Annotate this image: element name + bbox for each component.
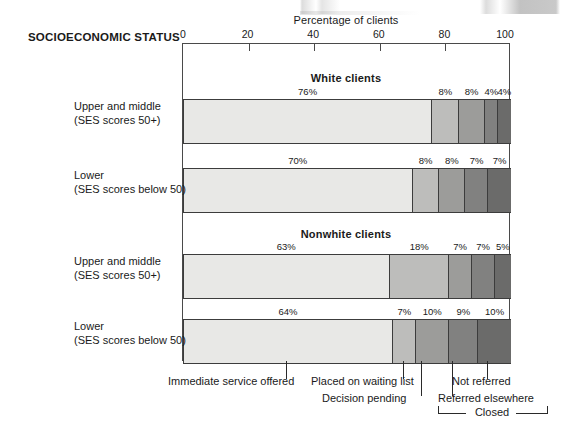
value-label: 7% xyxy=(453,241,467,252)
value-label: 63% xyxy=(277,241,296,252)
value-label: 7% xyxy=(398,306,412,317)
value-label: 8% xyxy=(465,86,479,97)
segment-not-referred[interactable] xyxy=(498,99,511,144)
scan-artifact-top xyxy=(0,0,565,14)
group-header-white: White clients xyxy=(183,72,509,84)
value-label: 76% xyxy=(298,86,317,97)
legend-label-not-referred: Not referred xyxy=(452,375,511,387)
value-label: 5% xyxy=(496,241,510,252)
legend-label-decision-pending: Decision pending xyxy=(322,392,406,404)
legend-label-waiting-list: Placed on waiting list xyxy=(311,375,414,387)
x-tick-mark-40 xyxy=(314,44,315,51)
segment-decision-pending[interactable] xyxy=(459,99,485,144)
segment-immediate-service[interactable] xyxy=(183,99,432,144)
x-tick-label-0: 0 xyxy=(180,28,186,40)
value-label: 4% xyxy=(498,86,512,97)
bar-white-upper-middle[interactable] xyxy=(183,99,511,144)
x-axis-title: Percentage of clients xyxy=(182,14,510,26)
segment-decision-pending[interactable] xyxy=(439,168,465,213)
segment-not-referred[interactable] xyxy=(495,254,511,299)
x-tick-label-100: 100 xyxy=(496,28,514,40)
x-tick-mark-60 xyxy=(380,44,381,51)
group-header-nonwhite: Nonwhite clients xyxy=(183,228,509,240)
value-label: 18% xyxy=(410,241,429,252)
value-label: 10% xyxy=(423,306,442,317)
value-label: 7% xyxy=(476,241,490,252)
leader-line-decision-pending xyxy=(421,361,422,396)
value-label: 64% xyxy=(278,306,297,317)
value-label: 8% xyxy=(445,155,459,166)
chart-axis-heading: SOCIOECONOMIC STATUS xyxy=(28,31,180,43)
x-tick-label-40: 40 xyxy=(307,28,319,40)
segment-not-referred[interactable] xyxy=(488,168,511,213)
bar-white-lower[interactable] xyxy=(183,168,511,213)
segment-referred-elsewhere[interactable] xyxy=(485,99,498,144)
bar-nonwhite-upper-middle[interactable] xyxy=(183,254,511,299)
x-tick-label-60: 60 xyxy=(373,28,385,40)
value-label: 8% xyxy=(439,86,453,97)
closed-bracket-line-right xyxy=(516,413,548,414)
x-tick-label-20: 20 xyxy=(242,28,254,40)
segment-referred-elsewhere[interactable] xyxy=(449,319,479,364)
value-label: 4% xyxy=(484,86,498,97)
segment-waiting-list[interactable] xyxy=(393,319,416,364)
segment-waiting-list[interactable] xyxy=(390,254,449,299)
closed-bracket-line-left xyxy=(438,413,466,414)
legend-label-immediate-service: Immediate service offered xyxy=(168,375,294,387)
segment-waiting-list[interactable] xyxy=(413,168,439,213)
segment-immediate-service[interactable] xyxy=(183,254,390,299)
x-tick-mark-80 xyxy=(445,44,446,51)
segment-referred-elsewhere[interactable] xyxy=(472,254,495,299)
plot-area: White clients 76% 8% 8% 4% 4% 70% 8% 8% … xyxy=(182,43,510,361)
bar-nonwhite-lower[interactable] xyxy=(183,319,511,364)
value-label: 9% xyxy=(457,306,471,317)
segment-decision-pending[interactable] xyxy=(449,254,472,299)
closed-bracket-label: Closed xyxy=(471,406,513,418)
value-label: 8% xyxy=(419,155,433,166)
value-label: 7% xyxy=(470,155,484,166)
value-label: 70% xyxy=(288,155,307,166)
value-label: 7% xyxy=(493,155,507,166)
segment-referred-elsewhere[interactable] xyxy=(465,168,488,213)
legend-label-referred-elsewhere: Referred elsewhere xyxy=(438,392,534,404)
x-tick-mark-20 xyxy=(249,44,250,51)
segment-immediate-service[interactable] xyxy=(183,168,413,213)
segment-waiting-list[interactable] xyxy=(432,99,458,144)
value-label: 10% xyxy=(485,306,504,317)
x-tick-label-80: 80 xyxy=(439,28,451,40)
segment-immediate-service[interactable] xyxy=(183,319,393,364)
segment-decision-pending[interactable] xyxy=(416,319,449,364)
segment-not-referred[interactable] xyxy=(478,319,511,364)
